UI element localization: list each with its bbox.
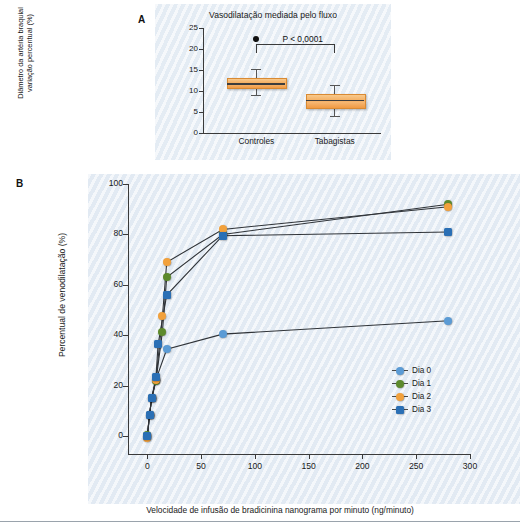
- legend-label: Dia 1: [412, 379, 431, 388]
- panel-b-x-tick-label: 150: [294, 461, 324, 471]
- panel-b-y-tick-label: 80: [99, 228, 123, 238]
- legend-label: Dia 2: [412, 392, 431, 401]
- whisker-cap-lower: [330, 116, 340, 117]
- data-point-dia3: [154, 340, 162, 348]
- panel-a-letter: A: [138, 14, 145, 25]
- panel-a-y-tick-label: 25: [182, 23, 198, 32]
- panel-b-x-tick: [362, 454, 363, 459]
- data-point-dia2: [163, 258, 171, 266]
- panel-a-y-tick-label: 20: [182, 44, 198, 53]
- page-bottom-rule: [0, 521, 520, 522]
- panel-b-x-tick-label: 50: [186, 461, 216, 471]
- box-median-line: [306, 100, 364, 101]
- panel-b-x-tick: [309, 454, 310, 459]
- legend-marker-icon: [396, 367, 404, 375]
- whisker-upper: [334, 85, 335, 93]
- whisker-cap-lower: [251, 95, 261, 96]
- panel-b-x-axis: [128, 454, 470, 455]
- panel-b-y-tick-label: 100: [99, 178, 123, 188]
- whisker-cap-upper: [251, 69, 261, 70]
- data-point-dia3: [143, 432, 151, 440]
- legend-line: [392, 370, 408, 371]
- panel-b-x-tick-label: 0: [132, 461, 162, 471]
- panel-a-y-tick: [199, 91, 203, 92]
- legend-item-dia-0: Dia 0: [392, 364, 431, 377]
- legend-item-dia-2: Dia 2: [392, 390, 431, 403]
- data-point-dia0: [219, 330, 227, 338]
- panel-a-y-tick-label: 15: [182, 65, 198, 74]
- panel-a-title: Vasodilatação mediada pelo fluxo: [155, 10, 391, 20]
- panel-b-x-tick-label: 100: [240, 461, 270, 471]
- data-point-dia3: [148, 394, 156, 402]
- panel-b-y-tick-label: 40: [99, 329, 123, 339]
- panel-a-y-tick-label: 10: [182, 86, 198, 95]
- legend-line: [392, 383, 408, 384]
- panel-a-y-tick: [199, 133, 203, 134]
- whisker-upper: [256, 69, 257, 77]
- panel-b-y-axis-label: Percentual de venodilatação (%): [57, 205, 67, 385]
- data-point-dia3: [163, 291, 171, 299]
- pvalue-label: P < 0,0001: [282, 34, 323, 44]
- panel-b-x-tick: [416, 454, 417, 459]
- panel-a-y-tick-label: 0: [182, 128, 198, 137]
- panel-b-x-tick: [470, 454, 471, 459]
- legend-line: [392, 409, 408, 410]
- legend-marker-icon: [396, 380, 404, 388]
- legend-label: Dia 3: [412, 405, 431, 414]
- data-point-dia3: [152, 373, 160, 381]
- panel-b-x-tick-label: 200: [347, 461, 377, 471]
- panel-a-y-tick: [199, 112, 203, 113]
- data-point-dia3: [219, 232, 227, 240]
- panel-b-y-tick-label: 20: [99, 380, 123, 390]
- data-point-dia0: [163, 345, 171, 353]
- panel-a-x-axis: [203, 133, 381, 134]
- panel-b-x-axis-label: Velocidade de infusão de bradicinina nan…: [60, 505, 500, 515]
- panel-a-y-tick: [199, 70, 203, 71]
- legend-marker-icon: [396, 406, 404, 414]
- legend-line: [392, 396, 408, 397]
- panel-b-x-tick-label: 250: [401, 461, 431, 471]
- whisker-cap-upper: [330, 85, 340, 86]
- data-point-dia3: [146, 411, 154, 419]
- data-point-dia3: [444, 228, 452, 236]
- box-median-line: [227, 83, 285, 84]
- panel-a-x-label-controles: Controles: [216, 136, 296, 146]
- figure-root: A Vasodilatação mediada pelo fluxo Diâme…: [0, 0, 520, 529]
- panel-a-y-axis-label: Diâmetro da artéria braquial variação pe…: [16, 0, 34, 111]
- panel-a-x-label-tabagistas: Tabagistas: [295, 136, 375, 146]
- panel-b-y-tick-label: 60: [99, 279, 123, 289]
- panel-a-y-tick-label: 5: [182, 107, 198, 116]
- panel-b-x-tick-label: 300: [455, 461, 485, 471]
- panel-b-x-tick: [255, 454, 256, 459]
- legend-item-dia-3: Dia 3: [392, 403, 431, 416]
- legend-marker-icon: [396, 393, 404, 401]
- panel-a-y-tick: [199, 49, 203, 50]
- legend-item-dia-1: Dia 1: [392, 377, 431, 390]
- panel-a-y-axis: [203, 28, 204, 133]
- panel-b-x-tick: [201, 454, 202, 459]
- panel-b-legend: Dia 0Dia 1Dia 2Dia 3: [392, 364, 431, 416]
- legend-label: Dia 0: [412, 366, 431, 375]
- panel-b-letter: B: [16, 178, 23, 189]
- panel-b-y-tick-label: 0: [99, 430, 123, 440]
- panel-b-x-tick: [147, 454, 148, 459]
- panel-a-y-tick: [199, 28, 203, 29]
- panel-a-plot-area: 2520151050 P < 0,0001 ControlesTabagista…: [203, 28, 381, 140]
